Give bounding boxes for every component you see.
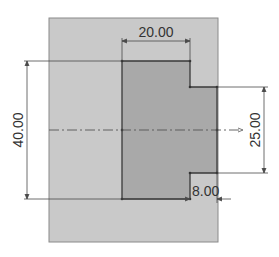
dimension-top-width-label[interactable]: 20.00 xyxy=(138,24,173,40)
dimension-overall-height-label[interactable]: 40.00 xyxy=(10,112,26,147)
dimension-step-width-label[interactable]: 8.00 xyxy=(192,183,219,199)
cad-sketch-canvas: 20.00 40.00 25.00 8.00 xyxy=(0,0,279,257)
dimension-right-height-label[interactable]: 25.00 xyxy=(247,112,263,147)
